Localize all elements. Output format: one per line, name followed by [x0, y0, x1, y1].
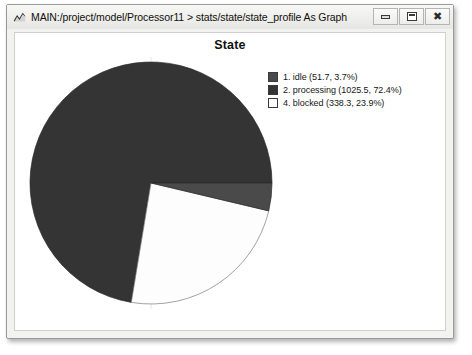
close-button[interactable]: ✖: [425, 8, 450, 25]
title-bar[interactable]: MAIN:/project/model/Processor11 > stats/…: [7, 5, 453, 29]
chart-panel: State 1. idle (51.7, 3.7%) 2: [14, 32, 446, 331]
minimize-icon: [381, 15, 390, 19]
legend-item[interactable]: 1. idle (51.7, 3.7%): [268, 71, 402, 82]
window-controls: ✖: [373, 8, 450, 25]
graph-window: MAIN:/project/model/Processor11 > stats/…: [6, 4, 454, 339]
legend-swatch-blocked: [268, 98, 278, 108]
legend-swatch-processing: [268, 85, 278, 95]
chart-app-icon: [13, 11, 26, 24]
close-icon: ✖: [433, 11, 442, 22]
legend-label-idle: 1. idle (51.7, 3.7%): [283, 72, 358, 82]
plot-area: 1. idle (51.7, 3.7%) 2. processing (1025…: [15, 33, 445, 330]
pie-chart[interactable]: [25, 57, 277, 309]
window-title: MAIN:/project/model/Processor11 > stats/…: [31, 11, 347, 23]
legend-item[interactable]: 2. processing (1025.5, 72.4%): [268, 84, 402, 95]
chart-legend: 1. idle (51.7, 3.7%) 2. processing (1025…: [268, 71, 402, 108]
legend-item[interactable]: 4. blocked (338.3, 23.9%): [268, 97, 402, 108]
legend-label-blocked: 4. blocked (338.3, 23.9%): [283, 98, 384, 108]
legend-swatch-idle: [268, 72, 278, 82]
legend-label-processing: 2. processing (1025.5, 72.4%): [283, 85, 402, 95]
maximize-icon: [407, 12, 417, 21]
maximize-button[interactable]: [399, 8, 424, 25]
minimize-button[interactable]: [373, 8, 398, 25]
